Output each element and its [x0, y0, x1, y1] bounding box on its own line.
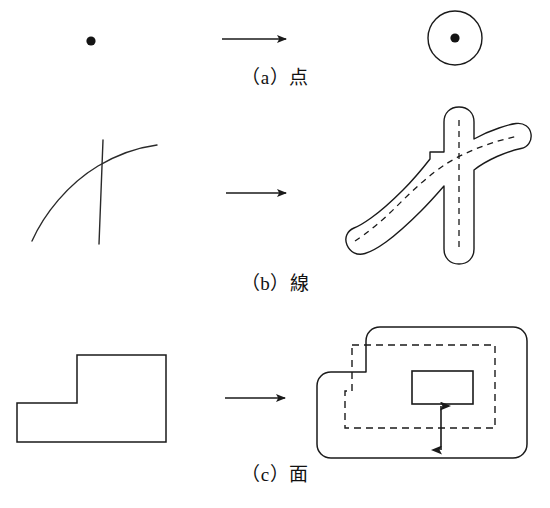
- caption-area-label: （c）面: [241, 459, 308, 486]
- figure-container: （a）点 （b）線 （c）面: [0, 0, 550, 508]
- caption-point: （a）点: [0, 62, 550, 89]
- panel-line-input: [32, 140, 157, 244]
- output-center-dot: [450, 33, 459, 42]
- output-inner-rectangle: [412, 371, 473, 404]
- panel-polygon-output: [317, 327, 527, 458]
- panel-point-input: [86, 36, 95, 45]
- caption-line: （b）線: [0, 268, 550, 295]
- caption-line-label: （b）線: [241, 268, 310, 295]
- caption-area: （c）面: [0, 459, 550, 486]
- panel-point-output: [428, 11, 482, 65]
- output-line-buffer-outline: [346, 107, 531, 264]
- panel-polygon-input: [17, 355, 166, 442]
- input-curve-line: [32, 145, 157, 241]
- input-polygon-outline: [17, 355, 166, 442]
- panel-line-output: [346, 107, 531, 264]
- input-straight-line: [99, 140, 103, 244]
- caption-point-label: （a）点: [241, 62, 308, 89]
- input-point-dot: [86, 36, 95, 45]
